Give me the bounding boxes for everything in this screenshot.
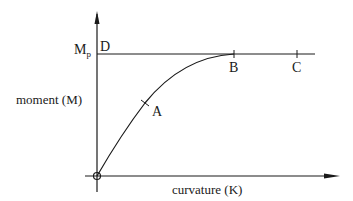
point-b-label: B [229,61,238,75]
y-axis-arrow-icon [95,11,100,24]
point-a-label: A [152,105,162,119]
mp-main: M [74,42,86,57]
x-axis-label: curvature (K) [172,183,242,196]
y-axis-label: moment (M) [16,93,82,106]
point-c-label: C [292,61,301,75]
point-a-tick [141,100,149,106]
moment-curvature-curve [97,54,234,176]
x-axis-arrow-icon [324,174,340,179]
plastic-moment-label: Mp [74,43,91,59]
point-d-label: D [100,40,110,54]
mp-sub: p [86,49,91,59]
